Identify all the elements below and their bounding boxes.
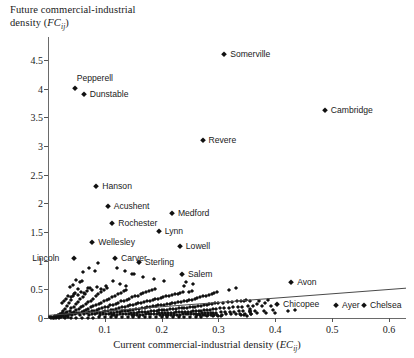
plot-area: 00.511.522.533.544.5 0.10.20.30.40.50.6 … <box>48 37 406 318</box>
point-label: Sterling <box>145 257 174 267</box>
y-tick-label: 2 <box>38 198 43 209</box>
point-label: Lynn <box>165 226 183 236</box>
point-label: Medford <box>178 208 210 218</box>
point-label: Hanson <box>102 181 132 191</box>
y-axis-label-line2-post: ) <box>65 17 69 28</box>
x-tick-label: 0.5 <box>326 324 339 335</box>
x-tick-label: 0.3 <box>212 324 225 335</box>
point-label: Ayer <box>342 300 360 310</box>
y-axis-label: Future commercial-industrial density (FC… <box>10 3 190 33</box>
point-label: Lincoln <box>32 253 59 263</box>
point-label: Lowell <box>186 241 210 251</box>
y-tick-mark <box>44 318 48 319</box>
point-label: Dunstable <box>90 89 129 99</box>
point-label: Revere <box>209 135 237 145</box>
x-tick-mark <box>218 318 219 322</box>
x-tick-label: 0.4 <box>269 324 282 335</box>
x-tick-mark <box>332 318 333 322</box>
x-tick-label: 0.2 <box>155 324 168 335</box>
point-label: Pepperell <box>77 73 113 83</box>
scatter-chart-figure: Future commercial-industrial density (FC… <box>0 0 414 358</box>
y-tick-label: 4.5 <box>31 54 44 65</box>
point-label: Wellesley <box>98 237 135 247</box>
y-tick-label: 3 <box>38 140 43 151</box>
point-label: Acushent <box>114 201 150 211</box>
point-label: Somerville <box>230 49 270 59</box>
point-label: Salem <box>188 269 212 279</box>
y-tick-label: 4 <box>38 83 43 94</box>
x-tick-mark <box>275 318 276 322</box>
y-tick-label: 0.5 <box>31 284 44 295</box>
point-label: Carver <box>121 253 147 263</box>
y-axis-label-line1: Future commercial-industrial <box>10 4 136 15</box>
x-tick-label: 0.6 <box>383 324 396 335</box>
point-label: Rochester <box>118 218 157 228</box>
x-tick-label: 0.1 <box>99 324 112 335</box>
point-label: Chicopee <box>283 299 319 309</box>
y-tick-label: 0 <box>38 313 43 324</box>
y-tick-label: 1.5 <box>31 226 44 237</box>
y-tick-label: 2.5 <box>31 169 44 180</box>
point-label: Avon <box>297 277 316 287</box>
point-label: Chelsea <box>370 300 402 310</box>
x-axis-label-post: ) <box>297 339 301 350</box>
y-axis-label-line2-pre: density ( <box>10 17 47 28</box>
point-label: Cambridge <box>331 105 373 115</box>
x-axis-line <box>48 318 406 319</box>
y-axis-label-variable: FC <box>47 17 61 28</box>
y-tick-label: 3.5 <box>31 112 44 123</box>
x-axis-label-pre: Current commercial-industrial density ( <box>113 339 280 350</box>
x-axis-label: Current commercial-industrial density (E… <box>0 339 414 353</box>
x-tick-mark <box>389 318 390 322</box>
x-axis-label-variable: EC <box>280 339 293 350</box>
